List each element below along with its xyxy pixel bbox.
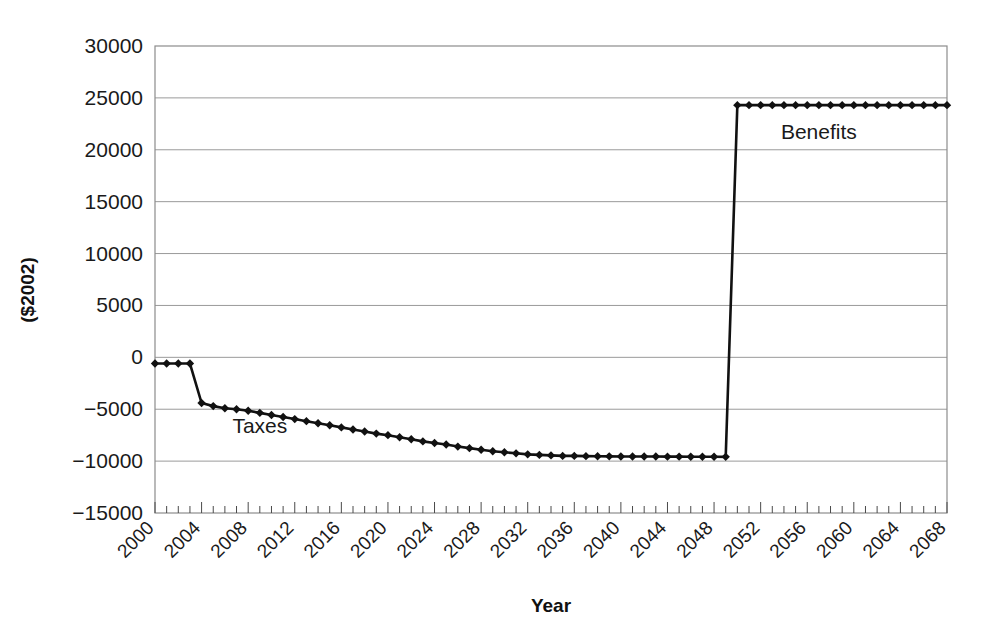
series-marker	[908, 101, 916, 109]
x-axis-tick-label: 2040	[579, 517, 624, 562]
series-marker	[652, 452, 660, 460]
series-marker	[162, 359, 170, 367]
data-series-group	[151, 101, 951, 461]
series-marker	[593, 452, 601, 460]
series-marker	[430, 439, 438, 447]
series-line	[155, 105, 947, 457]
series-marker	[174, 359, 182, 367]
series-marker	[360, 427, 368, 435]
x-axis-tick-label: 2036	[532, 517, 577, 562]
series-marker	[407, 435, 415, 443]
series-marker	[931, 101, 939, 109]
y-axis-tick-label: 10000	[85, 242, 143, 265]
series-marker	[302, 417, 310, 425]
x-axis-tick-label: 2016	[299, 517, 344, 562]
x-axis-tick-label: 2020	[346, 517, 391, 562]
series-marker	[791, 101, 799, 109]
x-axis-tick-label: 2004	[160, 517, 205, 562]
series-marker	[943, 101, 951, 109]
series-marker	[291, 415, 299, 423]
series-marker	[232, 405, 240, 413]
series-marker	[372, 429, 380, 437]
series-marker	[628, 452, 636, 460]
series-marker	[221, 404, 229, 412]
y-axis-tick-label: −15000	[72, 501, 143, 524]
series-marker	[617, 452, 625, 460]
x-axis-minor-ticks	[155, 502, 947, 513]
x-axis-tick-label: 2008	[206, 517, 251, 562]
series-marker	[896, 101, 904, 109]
series-marker	[524, 450, 532, 458]
series-marker	[838, 101, 846, 109]
series-marker	[826, 101, 834, 109]
series-marker	[920, 101, 928, 109]
series-marker	[675, 452, 683, 460]
series-marker	[768, 101, 776, 109]
chart-figure: 300002500020000150001000050000−5000−1000…	[0, 0, 993, 633]
series-marker	[384, 431, 392, 439]
series-marker	[349, 425, 357, 433]
x-axis-tick-label: 2052	[719, 517, 764, 562]
series-annotation-label: Benefits	[781, 120, 857, 143]
series-marker	[442, 440, 450, 448]
series-marker	[547, 451, 555, 459]
y-axis-tick-label: 5000	[96, 293, 143, 316]
y-axis-tick-label: 30000	[85, 34, 143, 57]
y-axis-tick-label: 25000	[85, 86, 143, 109]
series-annotation-label: Taxes	[232, 414, 287, 437]
x-axis-tick-label: 2064	[858, 517, 903, 562]
series-marker	[186, 359, 194, 367]
series-marker	[710, 453, 718, 461]
series-marker	[733, 101, 741, 109]
series-marker	[314, 419, 322, 427]
series-marker	[605, 452, 613, 460]
y-axis-tick-label: 15000	[85, 190, 143, 213]
series-marker	[197, 399, 205, 407]
series-marker	[815, 101, 823, 109]
line-chart-svg: 300002500020000150001000050000−5000−1000…	[0, 0, 993, 633]
x-axis-tick-label: 2028	[439, 517, 484, 562]
series-marker	[640, 452, 648, 460]
series-marker	[337, 423, 345, 431]
x-axis-tick-label: 2024	[393, 517, 438, 562]
series-marker	[873, 101, 881, 109]
series-marker	[326, 421, 334, 429]
x-axis-tick-label: 2068	[905, 517, 950, 562]
x-axis-tick-label: 2060	[812, 517, 857, 562]
y-axis-tick-label: 20000	[85, 138, 143, 161]
series-marker	[477, 445, 485, 453]
x-axis-tick-label: 2056	[765, 517, 810, 562]
plot-border	[155, 46, 947, 513]
y-axis-title: ($2002)	[17, 257, 38, 323]
series-marker	[756, 101, 764, 109]
x-axis-tick-labels: 2000200420082012201620202024202820322036…	[113, 517, 950, 562]
series-marker	[535, 451, 543, 459]
plot-gridlines	[155, 98, 947, 461]
series-marker	[454, 442, 462, 450]
series-marker	[512, 449, 520, 457]
plot-frame	[155, 46, 947, 513]
x-axis-tick-label: 2044	[626, 517, 671, 562]
series-marker	[885, 101, 893, 109]
series-marker	[582, 452, 590, 460]
series-marker	[570, 452, 578, 460]
series-marker	[687, 453, 695, 461]
x-axis-title: Year	[531, 595, 572, 616]
series-marker	[395, 433, 403, 441]
x-axis-tick-label: 2032	[486, 517, 531, 562]
series-marker	[489, 447, 497, 455]
series-marker	[722, 453, 730, 461]
series-marker	[500, 448, 508, 456]
x-axis-tick-label: 2048	[672, 517, 717, 562]
series-marker	[151, 359, 159, 367]
y-axis-tick-label: −10000	[72, 449, 143, 472]
y-axis-tick-label: −5000	[84, 397, 143, 420]
series-marker	[803, 101, 811, 109]
series-marker	[861, 101, 869, 109]
x-axis-tick-label: 2012	[253, 517, 298, 562]
y-axis-tick-labels: 300002500020000150001000050000−5000−1000…	[72, 34, 143, 524]
series-annotations: TaxesBenefits	[232, 120, 856, 437]
series-marker	[663, 452, 671, 460]
series-marker	[850, 101, 858, 109]
series-marker	[745, 101, 753, 109]
